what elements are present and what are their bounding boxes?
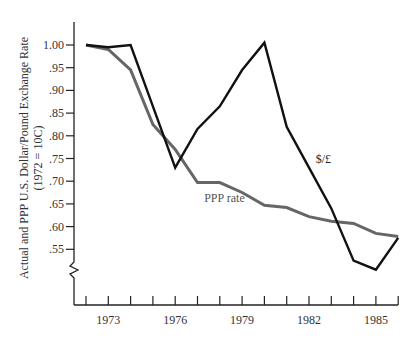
y-tick-label: .70: [49, 174, 64, 188]
x-tick-label: 1976: [163, 313, 187, 327]
y-axis-title-line2: (1972 = 10C): [31, 126, 45, 191]
y-tick-label: 1.00: [43, 38, 64, 52]
y-tick-label: .75: [49, 152, 64, 166]
y-tick-label: .85: [49, 106, 64, 120]
y-tick-label: .65: [49, 197, 64, 211]
x-tick-label: 1982: [297, 313, 321, 327]
y-tick-label: .80: [49, 129, 64, 143]
y-tick-label: .60: [49, 220, 64, 234]
x-tick-label: 1979: [230, 313, 254, 327]
y-tick-label: .90: [49, 83, 64, 97]
dollar-pound-label: $/£: [316, 152, 331, 166]
exchange-rate-chart: Actual and PPP U.S. Dollar/Pound Exchang…: [0, 0, 417, 339]
y-tick-label: .95: [49, 61, 64, 75]
series-labels: $/£PPP rate: [204, 152, 331, 205]
x-tick-label: 1985: [364, 313, 388, 327]
x-axis-ticks: 19731976197919821985: [86, 296, 398, 327]
x-tick-label: 1973: [96, 313, 120, 327]
y-axis-title: Actual and PPP U.S. Dollar/Pound Exchang…: [17, 37, 45, 279]
y-axis-title-line1: Actual and PPP U.S. Dollar/Pound Exchang…: [17, 37, 31, 279]
ppp-rate-label: PPP rate: [204, 191, 245, 205]
series-lines: [86, 43, 398, 270]
y-tick-label: .55: [49, 242, 64, 256]
axes: [70, 22, 398, 305]
y-axis-line: [70, 22, 78, 305]
y-axis-ticks: 1.00.95.90.85.80.75.70.65.60.55: [43, 38, 74, 256]
ppp-rate-line: [86, 45, 398, 237]
